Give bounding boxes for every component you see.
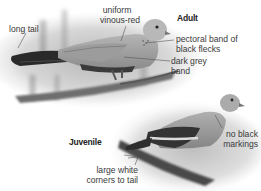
bird-illustration: [0, 0, 261, 191]
label-large-white-corners: large white corners to tail: [76, 166, 138, 185]
adult-title: Adult: [177, 13, 198, 23]
label-no-black-markings: no black markings: [214, 130, 258, 149]
bird-identification-diagram: long tail uniform vinous-red Adult pecto…: [0, 0, 261, 191]
label-pectoral-band: pectoral band of black flecks: [176, 35, 238, 54]
label-uniform-vinous-red: uniform vinous-red: [100, 6, 134, 25]
label-long-tail: long tail: [9, 25, 39, 35]
juvenile-title: Juvenile: [69, 137, 101, 147]
label-dark-grey-band: dark grey band: [171, 57, 207, 76]
